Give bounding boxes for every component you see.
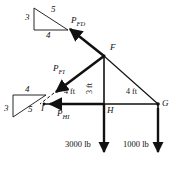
- force-label-PHI: PHI: [57, 109, 69, 120]
- force-label-PFI-subscript: FI: [59, 68, 65, 75]
- joint-label-H: H: [107, 106, 114, 115]
- force-label-PFD: PFD: [71, 16, 85, 27]
- force-arrow-PFD: [70, 29, 104, 56]
- figure-free-body-diagram: 3 5 4 3 4 5 PFD PFI PHI F G H I 3 ft 4 f…: [0, 0, 175, 174]
- slope-triangle-upper-hypotenuse-label: 5: [51, 5, 56, 14]
- dimension-label-IH: 4 ft: [64, 88, 75, 96]
- slope-triangle-upper-horizontal-label: 4: [46, 31, 51, 40]
- slope-triangle-lower-hypotenuse-label: 5: [28, 105, 33, 114]
- joint-markers: [43, 54, 160, 105]
- slope-triangle-lower-horizontal-label: 4: [25, 85, 30, 94]
- load-label-1000lb: 1000 lb: [123, 140, 149, 149]
- force-label-PFD-subscript: FD: [77, 20, 86, 27]
- dimension-label-HG: 4 ft: [126, 88, 137, 96]
- joint-dot-G: [156, 102, 160, 106]
- load-label-3000lb: 3000 lb: [65, 140, 91, 149]
- joint-label-I: I: [41, 104, 44, 113]
- dimension-label-FH: 3 ft: [86, 83, 94, 94]
- slope-triangle-lower-vertical-label: 3: [4, 104, 9, 113]
- force-label-PHI-subscript: HI: [63, 113, 70, 120]
- force-label-PFI: PFI: [53, 64, 65, 75]
- slope-triangle-upper-vertical-label: 3: [25, 13, 30, 22]
- joint-label-F: F: [110, 43, 116, 52]
- member-FG: [104, 56, 158, 104]
- joint-label-G: G: [162, 99, 169, 108]
